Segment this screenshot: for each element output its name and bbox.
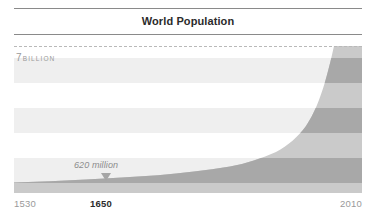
title-rule-top: [14, 8, 362, 9]
down-triangle-marker-icon: [101, 173, 111, 181]
y-axis-reference-label: 7billion: [16, 50, 55, 64]
population-area-chart-svg: [14, 46, 362, 193]
plot-area: [14, 46, 362, 193]
annotation-620-million-label: 620 million: [74, 160, 118, 170]
seven-billion-reference-line: [14, 46, 362, 47]
x-axis-tick-end: 2010: [340, 198, 362, 210]
x-axis-tick-start: 1530: [14, 198, 36, 210]
title-rule-bottom: [14, 34, 362, 35]
page-title: World Population: [14, 13, 362, 29]
y-axis-reference-value: 7: [16, 52, 22, 63]
y-axis-reference-unit: billion: [23, 55, 56, 62]
x-axis-tick-mid: 1650: [90, 198, 112, 210]
world-population-chart-figure: World Population: [0, 0, 375, 218]
